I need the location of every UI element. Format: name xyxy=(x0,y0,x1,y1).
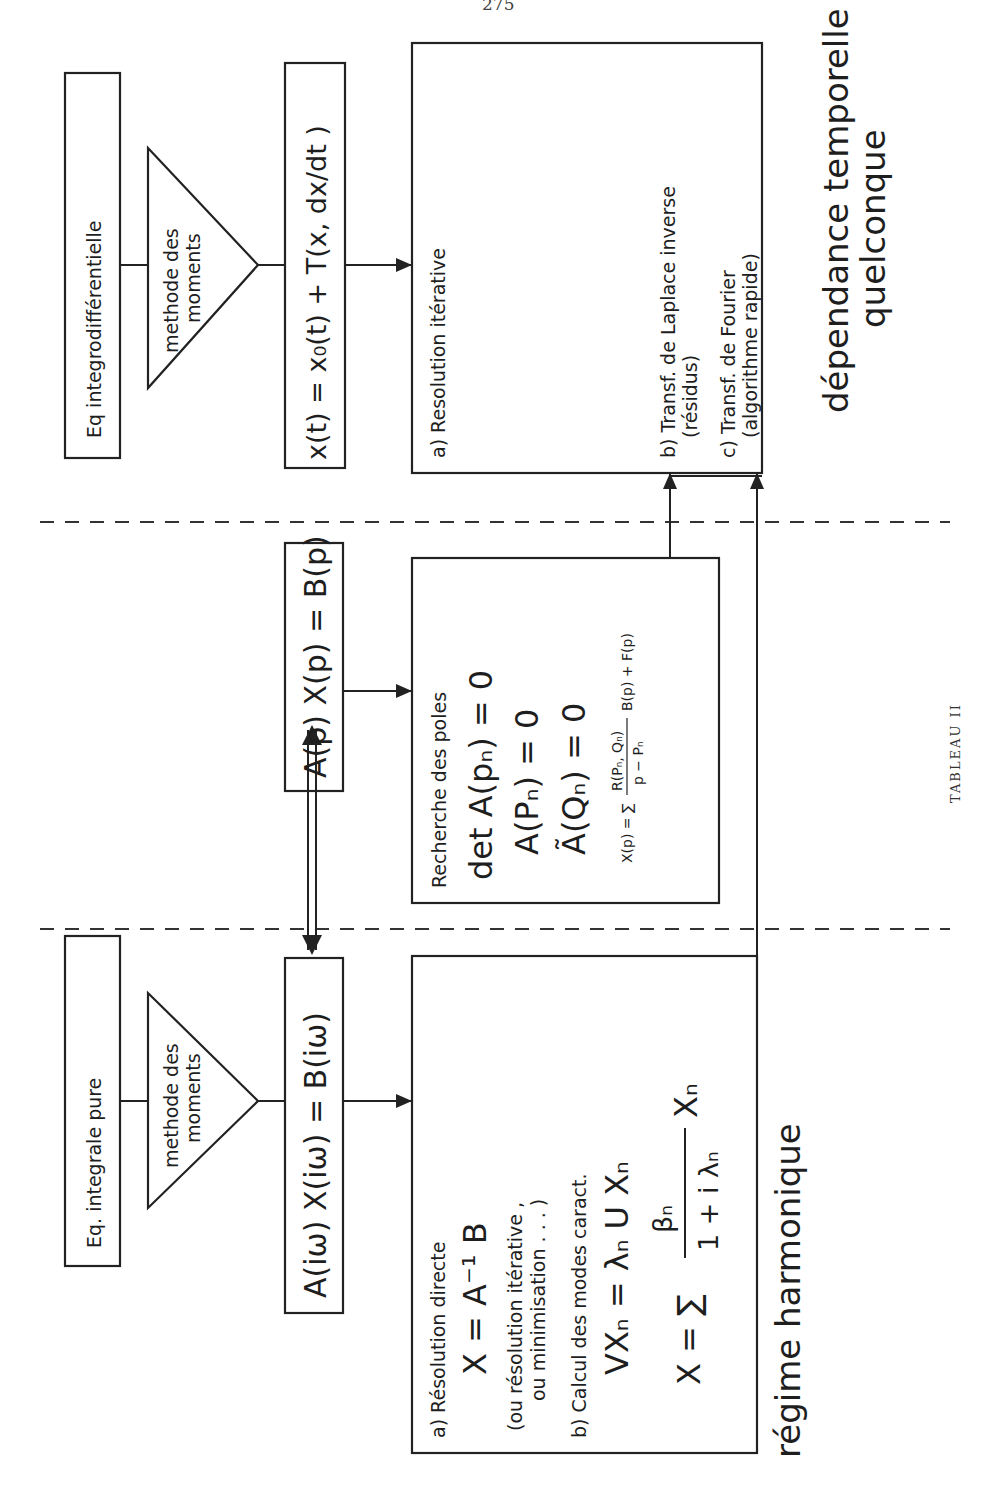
temporal-b-note: (résidus) xyxy=(679,355,701,438)
source-box-label: Eq. integrale pure xyxy=(83,1078,105,1248)
temporal-c-note: (algorithme rapide) xyxy=(739,253,761,438)
region-label-temporal-line1: dépendance temporelle xyxy=(816,8,856,413)
method-label-line2: moments xyxy=(182,1053,204,1143)
temporal-solution-box xyxy=(412,43,762,473)
laplace-column: A(p) X(p) = B(p) Recherche des poles det… xyxy=(285,476,719,903)
poles-eq4-lhs: X(p) = ∑ xyxy=(619,803,635,863)
arrowhead-down-icon xyxy=(396,684,412,698)
laplace-equation: A(p) X(p) = B(p) xyxy=(298,535,333,778)
temporal-a-label: a) Resolution itérative xyxy=(427,248,449,458)
poles-eq4-rhs: B(p) + F(p) xyxy=(619,633,635,711)
poles-eq1: det A(pₙ) = 0 xyxy=(462,670,500,880)
arrowhead-down-icon xyxy=(396,258,412,272)
region-label-harmonic: régime harmonique xyxy=(768,1123,808,1458)
harmonic-b-formula2-lhs: X = ∑ xyxy=(670,1294,708,1385)
temporal-equation: x(t) = x₀(t) + T(x, dx/dt ) xyxy=(301,125,332,460)
temporal-source-label: Eq integrodifférentielle xyxy=(83,220,105,438)
poles-eq4-denominator: p − Pₙ xyxy=(630,741,646,785)
flowchart-diagram: Eq. integrale pure methode des moments A… xyxy=(0,0,1007,1503)
poles-eq2: A(Pₙ) = 0 xyxy=(508,709,546,855)
harmonic-b-formula1: VXₙ = λₙ U Xₙ xyxy=(598,1161,636,1375)
poles-eq4-numerator: R(Pₙ, Qₙ) xyxy=(609,731,625,791)
temporal-c-label: c) Transf. de Fourier xyxy=(717,270,739,458)
table-caption: TABLEAU II xyxy=(948,703,963,803)
temporal-b-label: b) Transf. de Laplace inverse xyxy=(657,186,679,458)
harmonic-equation: A(iω) X(iω) = B(iω) xyxy=(298,1012,333,1298)
harmonic-a-note-line2: ou minimisation . . . ) xyxy=(527,1199,549,1401)
harmonic-b-formula2-numerator: βₙ xyxy=(647,1205,678,1233)
harmonic-a-label: a) Résolution directe xyxy=(427,1242,449,1438)
rotated-page-frame: Eq. integrale pure methode des moments A… xyxy=(40,8,963,1458)
harmonic-a-note-line1: (ou résolution itérative , xyxy=(504,1202,526,1431)
region-label-temporal-line2: quelconque xyxy=(853,129,893,328)
temporal-method-line2: moments xyxy=(182,233,204,323)
harmonic-b-formula2-denominator: 1 + i λₙ xyxy=(693,1151,724,1251)
harmonic-column: Eq. integrale pure methode des moments A… xyxy=(65,936,757,1453)
arrowhead-left-icon xyxy=(302,935,322,955)
poles-eq3: Ã(Qₙ) = 0 xyxy=(555,703,593,855)
harmonic-b-formula2-rhs: Xₙ xyxy=(667,1083,705,1118)
arrowhead-down-icon xyxy=(396,1094,412,1108)
method-label-line1: methode des xyxy=(160,1043,182,1168)
harmonic-b-label: b) Calcul des modes caract. xyxy=(568,1174,590,1439)
temporal-method-line1: methode des xyxy=(160,228,182,353)
poles-title: Recherche des poles xyxy=(428,692,450,888)
harmonic-a-formula: X = A⁻¹ B xyxy=(456,1222,494,1375)
